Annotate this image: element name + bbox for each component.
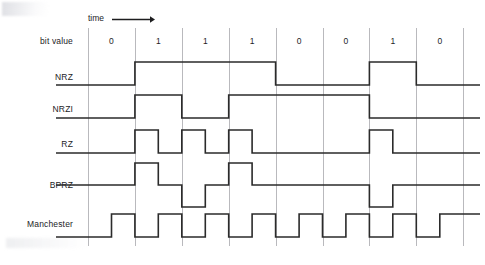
waveform-manchester	[56, 214, 480, 237]
bit-value-cell: 1	[182, 36, 229, 46]
bit-value-cell: 1	[369, 36, 416, 46]
waveform-nrz	[56, 62, 480, 85]
bit-value-cell: 0	[323, 36, 370, 46]
line-coding-waveform-figure: time bit value NRZ NRZI RZ BPRZ Manchest…	[0, 0, 485, 265]
bit-value-cell: 0	[276, 36, 323, 46]
bit-value-cell: 1	[135, 36, 182, 46]
bit-value-cell: 1	[229, 36, 276, 46]
right-arrow-icon	[150, 16, 155, 22]
bit-value-cell: 0	[88, 36, 135, 46]
bit-value-cell: 0	[416, 36, 463, 46]
